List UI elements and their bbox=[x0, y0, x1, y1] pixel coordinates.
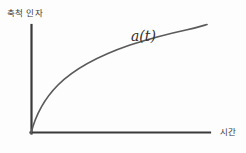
y-axis-label: 축척 인자 bbox=[7, 8, 43, 18]
curve-label: a(t) bbox=[131, 28, 156, 44]
scale-factor-diagram: 축척 인자 시간 a(t) bbox=[0, 0, 246, 153]
plot-area bbox=[0, 0, 246, 153]
scale-factor-curve bbox=[31, 25, 207, 134]
x-axis-label: 시간 bbox=[220, 127, 236, 137]
